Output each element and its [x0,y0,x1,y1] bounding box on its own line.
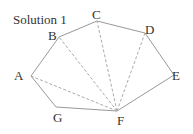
diagonal-FA [31,76,117,111]
vertex-label-E: E [172,68,180,83]
vertex-label-B: B [48,28,57,43]
diagram-title: Solution 1 [13,12,67,27]
heptagon-diagram: Solution 1 ABCDEFG [0,0,193,134]
vertex-label-F: F [117,113,124,128]
vertex-label-A: A [14,68,24,83]
vertex-label-G: G [53,110,62,125]
vertex-label-D: D [145,22,154,37]
vertex-label-C: C [92,7,101,22]
diagonal-FB [59,37,117,111]
diagonal-FD [117,33,145,111]
